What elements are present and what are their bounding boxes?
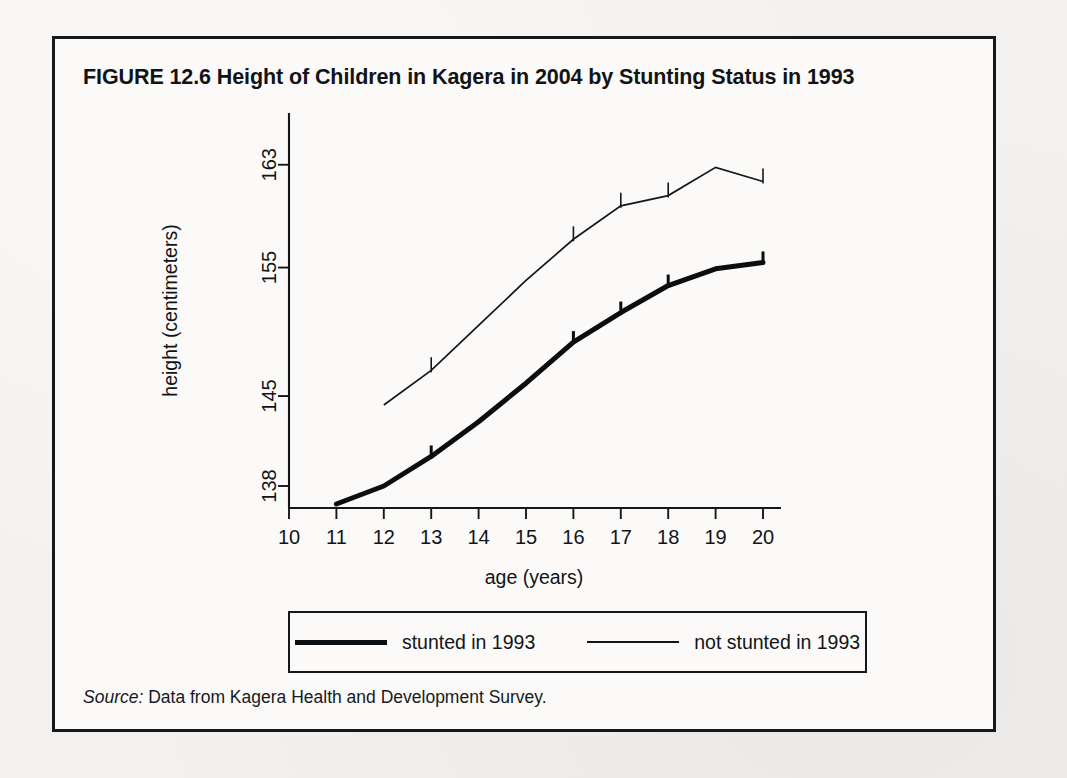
x-axis-title: age (years) bbox=[485, 566, 584, 588]
x-tick-label: 11 bbox=[326, 526, 347, 548]
source-text: Data from Kagera Health and Development … bbox=[143, 687, 546, 707]
page-background: FIGURE 12.6 Height of Children in Kagera… bbox=[0, 0, 1067, 778]
x-tick-label: 20 bbox=[752, 526, 774, 548]
x-tick-label: 12 bbox=[373, 526, 395, 548]
x-tick-label: 10 bbox=[278, 526, 300, 548]
legend-item-not-stunted: not stunted in 1993 bbox=[587, 631, 860, 654]
x-tick-label: 14 bbox=[467, 526, 489, 548]
x-tick-label: 15 bbox=[515, 526, 537, 548]
y-tick-label: 163 bbox=[258, 148, 280, 181]
y-tick-label: 145 bbox=[258, 379, 280, 412]
x-tick-label: 13 bbox=[420, 526, 442, 548]
x-tick-label: 18 bbox=[657, 526, 679, 548]
legend-swatch-thin-line bbox=[587, 641, 679, 643]
source-prefix: Source: bbox=[83, 687, 143, 707]
legend-label-stunted: stunted in 1993 bbox=[402, 631, 535, 654]
figure-container: FIGURE 12.6 Height of Children in Kagera… bbox=[52, 36, 996, 732]
legend-swatch-thick-line bbox=[295, 640, 387, 645]
x-tick-label: 19 bbox=[704, 526, 726, 548]
y-tick-label: 155 bbox=[258, 251, 280, 284]
y-tick-label: 138 bbox=[258, 469, 280, 502]
legend-label-not-stunted: not stunted in 1993 bbox=[694, 631, 860, 654]
chart-legend: stunted in 1993 not stunted in 1993 bbox=[288, 611, 867, 673]
y-axis-title: height (centimeters) bbox=[159, 224, 181, 396]
legend-item-stunted: stunted in 1993 bbox=[295, 631, 535, 654]
x-tick-label: 16 bbox=[562, 526, 584, 548]
series-line-stunted bbox=[336, 262, 763, 504]
series-line-not-stunted bbox=[384, 167, 763, 405]
x-tick-label: 17 bbox=[610, 526, 632, 548]
source-note: Source: Data from Kagera Health and Deve… bbox=[83, 687, 547, 708]
